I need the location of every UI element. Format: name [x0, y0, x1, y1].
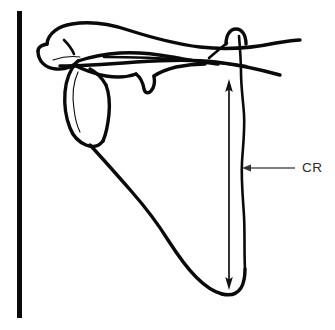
figure-background — [0, 0, 335, 330]
diagram-canvas: CR — [0, 0, 335, 330]
image-receptor-bar — [17, 11, 22, 318]
cr-label: CR — [302, 160, 323, 175]
scapula-positioning-figure: CR — [0, 0, 335, 330]
